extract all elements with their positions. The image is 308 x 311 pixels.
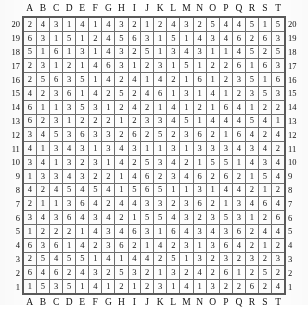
cell-D9: 4	[63, 169, 76, 183]
cell-K3: 2	[154, 252, 167, 266]
cell-N8: 3	[193, 183, 206, 197]
row-label-left-8: 8	[0, 183, 23, 197]
cell-J15: 4	[141, 86, 154, 100]
cell-A3: 2	[23, 252, 37, 266]
cell-E9: 3	[76, 169, 89, 183]
column-header-j: J	[141, 294, 154, 311]
cell-Q19: 6	[232, 31, 245, 45]
cell-D15: 6	[63, 86, 76, 100]
cell-Q9: 2	[232, 169, 245, 183]
cell-H17: 3	[115, 59, 128, 73]
cell-H11: 4	[115, 142, 128, 156]
cell-P5: 3	[219, 224, 232, 238]
cell-T14: 2	[271, 100, 284, 114]
cell-Q16: 3	[232, 73, 245, 87]
cell-F3: 1	[89, 252, 102, 266]
cell-C7: 1	[50, 197, 63, 211]
cell-A15: 4	[23, 86, 37, 100]
cell-Q3: 2	[232, 252, 245, 266]
cell-S8: 1	[258, 183, 271, 197]
cell-O10: 5	[206, 155, 219, 169]
cell-P2: 6	[219, 266, 232, 280]
cell-E13: 2	[76, 114, 89, 128]
cell-N17: 1	[193, 59, 206, 73]
cell-A11: 4	[23, 142, 37, 156]
column-header-h: H	[115, 0, 128, 17]
table-row: 172312146312315122616317	[0, 59, 308, 73]
cell-D11: 4	[63, 142, 76, 156]
cell-O9: 2	[206, 169, 219, 183]
cell-K7: 3	[154, 197, 167, 211]
cell-A6: 3	[23, 211, 37, 225]
cell-P12: 1	[219, 128, 232, 142]
row-label-left-15: 15	[0, 86, 23, 100]
cell-M4: 3	[180, 238, 193, 252]
column-header-h: H	[115, 294, 128, 311]
cell-N10: 1	[193, 155, 206, 169]
cell-Q20: 4	[232, 17, 245, 31]
table-row: 3254551414425132323233	[0, 252, 308, 266]
column-header-c: C	[50, 0, 63, 17]
row-label-left-14: 14	[0, 100, 23, 114]
cell-R9: 1	[245, 169, 258, 183]
cell-I5: 6	[128, 224, 141, 238]
cell-Q8: 4	[232, 183, 245, 197]
cell-B6: 4	[36, 211, 49, 225]
column-header-s: S	[258, 294, 271, 311]
table-row: 146113531242141216412214	[0, 100, 308, 114]
cell-C2: 6	[50, 266, 63, 280]
cell-K5: 1	[154, 224, 167, 238]
cell-N20: 2	[193, 17, 206, 31]
table-row: 9133432214623462621549	[0, 169, 308, 183]
column-header-j: J	[141, 0, 154, 17]
cell-J17: 2	[141, 59, 154, 73]
cell-O1: 3	[206, 280, 219, 294]
cell-B19: 3	[36, 31, 49, 45]
cell-N4: 1	[193, 238, 206, 252]
row-label-left-7: 7	[0, 197, 23, 211]
cell-E6: 4	[76, 211, 89, 225]
cell-G11: 3	[102, 142, 115, 156]
cell-I10: 2	[128, 155, 141, 169]
column-header-q: Q	[232, 294, 245, 311]
cell-E12: 6	[76, 128, 89, 142]
cell-K19: 1	[154, 31, 167, 45]
cell-Q15: 2	[232, 86, 245, 100]
cell-J16: 1	[141, 73, 154, 87]
cell-H5: 4	[115, 224, 128, 238]
cell-C9: 3	[50, 169, 63, 183]
cell-L9: 3	[167, 169, 180, 183]
cell-S3: 2	[258, 252, 271, 266]
cell-R4: 2	[245, 238, 258, 252]
cell-Q11: 4	[232, 142, 245, 156]
cell-M12: 3	[180, 128, 193, 142]
cell-H14: 2	[115, 100, 128, 114]
cell-J13: 3	[141, 114, 154, 128]
cell-K15: 6	[154, 86, 167, 100]
cell-Q2: 1	[232, 266, 245, 280]
column-header-g: G	[102, 0, 115, 17]
cell-O16: 1	[206, 73, 219, 87]
cell-A4: 6	[23, 238, 37, 252]
cell-F12: 3	[89, 128, 102, 142]
cell-N12: 6	[193, 128, 206, 142]
cell-G7: 2	[102, 197, 115, 211]
cell-F19: 2	[89, 31, 102, 45]
cell-H4: 6	[115, 238, 128, 252]
cell-D17: 2	[63, 59, 76, 73]
table-row: 202431414321243254451520	[0, 17, 308, 31]
cell-B5: 2	[36, 224, 49, 238]
cell-I1: 1	[128, 280, 141, 294]
cell-I14: 4	[128, 100, 141, 114]
cell-J12: 2	[141, 128, 154, 142]
column-header-o: O	[206, 0, 219, 17]
cell-K6: 5	[154, 211, 167, 225]
cell-N2: 4	[193, 266, 206, 280]
cell-S12: 2	[258, 128, 271, 142]
cell-T6: 6	[271, 211, 284, 225]
cell-C19: 1	[50, 31, 63, 45]
cell-F16: 1	[89, 73, 102, 87]
cell-M3: 1	[180, 252, 193, 266]
cell-M16: 1	[180, 73, 193, 87]
cell-D4: 1	[63, 238, 76, 252]
